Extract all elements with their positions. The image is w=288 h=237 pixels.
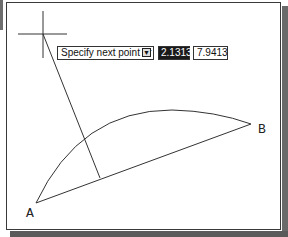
down-arrow-menu-icon[interactable]: ▼ — [142, 48, 151, 57]
prompt-text: Specify next point or — [61, 47, 152, 58]
arc-a-b — [36, 110, 251, 203]
coordinate-input-y[interactable]: 7.9413 — [193, 46, 228, 60]
drawing-canvas — [0, 0, 288, 237]
point-label-a: A — [26, 206, 34, 221]
point-label-b: B — [258, 122, 266, 137]
line-a-b — [36, 124, 251, 203]
coordinate-input-x[interactable]: 2.1313 — [158, 46, 190, 60]
dynamic-input-prompt: Specify next point or ▼ — [57, 46, 154, 60]
